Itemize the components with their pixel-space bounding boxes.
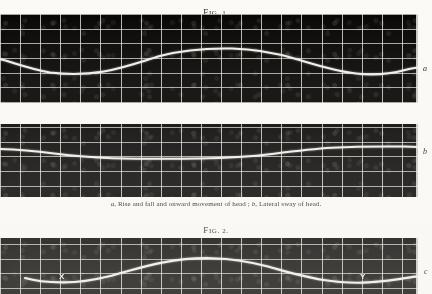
- trace-curve-b: [0, 124, 418, 197]
- figure-1-caption: a, Rise and fall and onward movement of …: [0, 200, 432, 208]
- grid-rows-b: [0, 124, 418, 197]
- trace-curve-a: [0, 14, 418, 103]
- grid-columns-c: [0, 238, 418, 294]
- kymograph-panel-b: [0, 124, 418, 197]
- caption-text-a: , Rise and fall and onward movement of h…: [114, 200, 251, 208]
- plate-edge-a: [416, 14, 418, 103]
- grid-columns-a: [0, 14, 418, 103]
- panel-label-a: a: [423, 64, 427, 73]
- panel-label-c: c: [424, 267, 428, 276]
- trace-marker-y: Y: [360, 272, 365, 281]
- panel-label-b: b: [423, 147, 427, 156]
- figure-page: FIG. 1. a b a, Rise and fall and onward …: [0, 0, 432, 294]
- grid-rows-a: [0, 14, 418, 103]
- figure-2-heading-rest: IG. 2.: [209, 227, 229, 235]
- caption-text-b: , Lateral sway of head.: [255, 200, 321, 208]
- kymograph-panel-c: [0, 238, 418, 294]
- kymograph-panel-a: [0, 14, 418, 103]
- grid-columns-b: [0, 124, 418, 197]
- figure-2-heading: FIG. 2.: [0, 219, 432, 237]
- grid-rows-c: [0, 238, 418, 294]
- trace-marker-x: X: [59, 272, 64, 281]
- plate-grain-a: [0, 14, 418, 103]
- plate-edge-c: [416, 238, 418, 294]
- plate-grain-b: [0, 124, 418, 197]
- trace-curve-c: [0, 238, 418, 294]
- plate-edge-b: [416, 124, 418, 197]
- plate-grain-c: [0, 238, 418, 294]
